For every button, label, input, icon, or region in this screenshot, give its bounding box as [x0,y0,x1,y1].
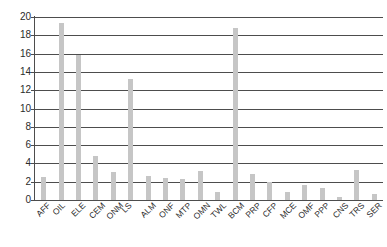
bar [250,174,255,200]
x-axis-tick-label: CEM [87,201,107,221]
x-axis-tick-label: PPP [313,201,331,219]
bar [215,192,220,200]
gridline [35,72,383,73]
x-axis-tick-label: TWL [209,201,228,220]
bar [146,176,151,200]
y-axis-tick-label: 10 [5,104,31,114]
y-axis-tick-mark [31,200,35,201]
y-axis-tick-label: 0 [5,195,31,205]
y-axis-tick-label: 4 [5,158,31,168]
y-axis-tick-label: 20 [5,12,31,22]
bar [354,170,359,200]
gridline [35,90,383,91]
x-axis-tick-label: SER [365,201,384,220]
bar [302,185,307,200]
gridline [35,145,383,146]
gridline [35,109,383,110]
gridline [35,17,383,18]
x-axis-tick-label: TRS [348,201,366,219]
bar [267,182,272,200]
y-axis-tick-label: 18 [5,30,31,40]
bar [372,194,377,200]
x-axis-tick-label: ONF [157,201,176,220]
x-axis-tick-label: ALM [139,201,158,220]
y-axis-tick-label: 2 [5,177,31,187]
x-axis-tick-label: MTP [174,201,193,220]
gridline [35,35,383,36]
bar [59,23,64,201]
bar [76,55,81,200]
y-axis-tick-label: 14 [5,67,31,77]
bar [128,79,133,200]
bar [93,156,98,200]
x-axis-tick-labels: AFFOILELECEMONMLSALMONFMTPOMNTWLBCMPRPCF… [35,201,383,247]
y-axis-tick-label: 6 [5,140,31,150]
gridline [35,127,383,128]
y-axis-tick-label: 12 [5,85,31,95]
x-axis-tick-label: PRP [244,201,263,220]
x-axis-tick-label: CNS [331,201,350,220]
y-axis-tick-mark [31,127,35,128]
gridline [35,182,383,183]
bar [180,179,185,200]
y-axis-tick-mark [31,90,35,91]
y-axis-tick-mark [31,145,35,146]
x-axis-tick-label: OIL [51,201,67,217]
plot-area [35,17,383,200]
bar [41,177,46,200]
y-axis-tick-mark [31,72,35,73]
bar [163,178,168,200]
x-axis-tick-label: ELE [69,201,87,219]
bar-chart: 02468101214161820 AFFOILELECEMONMLSALMON… [0,0,387,247]
gridline [35,163,383,164]
gridline [35,54,383,55]
y-axis-tick-labels: 02468101214161820 [0,0,31,247]
y-axis-tick-mark [31,163,35,164]
bar [111,172,116,200]
y-axis-tick-label: 8 [5,122,31,132]
y-axis-tick-mark [31,17,35,18]
bar [320,188,325,200]
x-axis-tick-label: MCE [279,201,299,221]
bar [198,171,203,200]
y-axis-tick-mark [31,109,35,110]
y-axis-tick-label: 16 [5,49,31,59]
y-axis-tick-mark [31,182,35,183]
x-axis-tick-label: CFP [261,201,279,219]
bar [337,197,342,200]
y-axis-tick-mark [31,35,35,36]
bar [233,28,238,200]
y-axis-tick-mark [31,54,35,55]
bar [285,192,290,200]
